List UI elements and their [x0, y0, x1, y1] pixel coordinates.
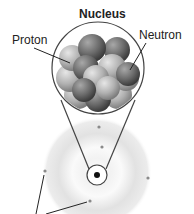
neutron-label: Neutron	[139, 29, 182, 41]
electron-pointer-1	[36, 175, 44, 214]
electron	[43, 169, 46, 172]
electron	[88, 199, 91, 202]
proton-label: Proton	[12, 34, 47, 46]
electron	[100, 145, 103, 148]
nucleus-magnified	[52, 22, 144, 114]
diagram-title: Nucleus	[79, 8, 126, 20]
electron	[146, 176, 149, 179]
nucleon-cluster	[56, 34, 140, 112]
nucleus-dot	[94, 172, 100, 178]
electron	[97, 125, 100, 128]
